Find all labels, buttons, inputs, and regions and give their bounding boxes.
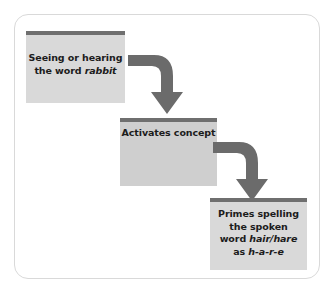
- node-concept: Activates concept: [120, 118, 217, 186]
- node-spelling-line1: Primes spelling: [218, 208, 299, 219]
- node-spelling-line4-plain: as: [233, 246, 248, 257]
- node-stimulus: Seeing or hearingthe word rabbit: [26, 31, 125, 103]
- node-spelling-label: Primes spellingthe spokenword hair/harea…: [218, 208, 299, 258]
- node-stimulus-line1: Seeing or hearing: [29, 52, 123, 63]
- node-concept-label: Activates concept: [122, 127, 216, 140]
- node-stimulus-line2-italic: rabbit: [85, 65, 117, 76]
- node-stimulus-label: Seeing or hearingthe word rabbit: [29, 52, 123, 77]
- arrow-stimulus-to-concept: [128, 52, 200, 120]
- node-spelling-line4-italic: h-a-r-e: [248, 246, 283, 257]
- node-spelling: Primes spellingthe spokenword hair/harea…: [210, 198, 307, 270]
- node-spelling-line3-italic: hair/hare: [249, 233, 297, 244]
- node-spelling-line3-plain: word: [220, 233, 250, 244]
- arrow-concept-to-spelling: [213, 139, 285, 207]
- diagram-canvas: Seeing or hearingthe word rabbit Activat…: [0, 0, 335, 298]
- node-stimulus-line2-plain: the word: [34, 65, 84, 76]
- node-spelling-line2: the spoken: [229, 221, 287, 232]
